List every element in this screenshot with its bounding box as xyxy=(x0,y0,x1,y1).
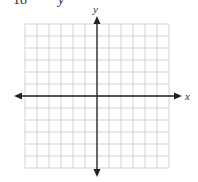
coordinate-plane: x y xyxy=(0,0,198,182)
x-axis-right-arrow-icon xyxy=(174,93,182,100)
y-axis-top-arrow-icon xyxy=(94,16,101,24)
x-axis-left-arrow-icon xyxy=(14,93,22,100)
y-axis-bottom-arrow-icon xyxy=(94,169,101,177)
x-axis-label: x xyxy=(184,90,190,102)
y-axis-label: y xyxy=(92,3,98,15)
